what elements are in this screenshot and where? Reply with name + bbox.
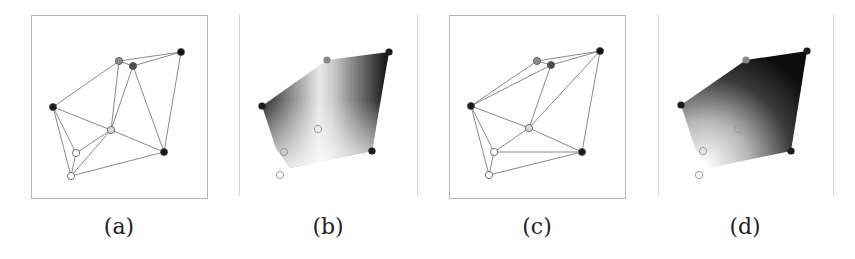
mesh-edge <box>529 128 582 152</box>
caption-b: (b) <box>298 212 358 242</box>
panel-d-interpolated-field <box>659 14 834 196</box>
hull-vertex <box>677 101 684 108</box>
mesh-edge <box>164 52 181 152</box>
hull-vertex <box>803 47 810 54</box>
mesh-edge <box>471 106 529 128</box>
caption-a: (a) <box>89 212 149 242</box>
mesh-vertex <box>490 148 497 155</box>
panel-a-triangulation <box>32 16 208 199</box>
mesh-vertex <box>596 47 603 54</box>
sample-ring <box>276 171 283 178</box>
mesh-vertex <box>129 62 136 69</box>
mesh-edge <box>133 66 164 152</box>
mesh-vertex <box>485 171 492 178</box>
mesh-edge <box>111 130 164 152</box>
mesh-vertex <box>115 57 122 64</box>
mesh-vertex <box>67 172 74 179</box>
caption-d: (d) <box>715 212 775 242</box>
hull-vertex <box>742 56 749 63</box>
mesh-vertex <box>49 103 56 110</box>
mesh-vertex <box>72 149 79 156</box>
panel-frame <box>32 16 208 199</box>
mesh-edge <box>53 107 71 176</box>
mesh-edge <box>71 152 164 176</box>
mesh-edge <box>53 61 119 107</box>
mesh-edge <box>471 61 537 106</box>
mesh-vertex <box>467 102 474 109</box>
mesh-vertex <box>525 124 532 131</box>
mesh-edge <box>494 128 529 152</box>
mesh-vertex <box>547 61 554 68</box>
mesh-edge <box>53 107 76 153</box>
mesh-edge <box>133 52 181 66</box>
panel-c-triangulation <box>450 16 626 199</box>
caption-c: (c) <box>507 212 567 242</box>
mesh-edge <box>53 107 111 130</box>
panel-b-interpolated-field <box>240 14 418 196</box>
mesh-vertex <box>177 48 184 55</box>
hull-vertex <box>368 147 375 154</box>
hull-vertex <box>258 102 265 109</box>
mesh-edge <box>471 106 489 175</box>
hull-vertex <box>787 147 794 154</box>
mesh-edge <box>489 152 582 175</box>
mesh-vertex <box>160 148 167 155</box>
hull-vertex <box>385 48 392 55</box>
hull-vertex <box>323 56 330 63</box>
mesh-vertex <box>107 126 114 133</box>
mesh-vertex <box>533 57 540 64</box>
sample-ring <box>695 171 702 178</box>
mesh-edge <box>582 51 600 152</box>
mesh-edge <box>119 52 181 61</box>
mesh-vertex <box>578 148 585 155</box>
panel-frame <box>450 16 626 199</box>
